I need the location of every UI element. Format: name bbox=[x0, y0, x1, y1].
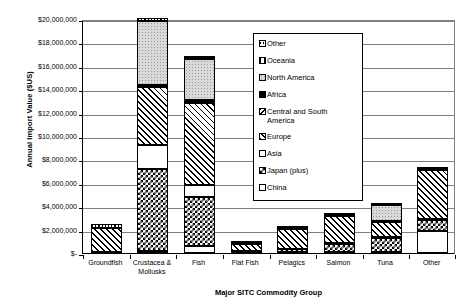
solid-black-swatch-icon bbox=[259, 91, 266, 98]
bar-segment-europe[interactable] bbox=[371, 222, 402, 237]
bar-segment-asia[interactable] bbox=[184, 185, 215, 197]
bar-segment-europe[interactable] bbox=[137, 87, 168, 146]
y-axis-tick-mark bbox=[79, 208, 83, 209]
bar-segment-japan-plus[interactable] bbox=[277, 249, 308, 252]
x-axis-category-label: Salmon bbox=[315, 258, 362, 267]
legend-item-label: Japan (plus) bbox=[267, 166, 308, 175]
bar-segment-europe[interactable] bbox=[417, 170, 448, 219]
y-axis-tick-label: $20,000,000 bbox=[5, 16, 77, 23]
legend-item[interactable]: Japan (plus) bbox=[259, 166, 362, 183]
legend-item[interactable]: China bbox=[259, 183, 362, 200]
legend-item[interactable]: Europe bbox=[259, 132, 362, 149]
bar-segment-japan-plus[interactable] bbox=[184, 197, 215, 246]
y-axis-tick-mark bbox=[79, 91, 83, 92]
bar-segment-japan-plus[interactable] bbox=[324, 244, 355, 252]
bar-segment-china[interactable] bbox=[184, 246, 215, 253]
bar-segment-asia[interactable] bbox=[137, 145, 168, 168]
y-axis-tick-label: $16,000,000 bbox=[5, 63, 77, 70]
legend-item-label: Europe bbox=[267, 132, 291, 141]
bar-segment-other[interactable] bbox=[324, 213, 355, 215]
bar-segment-other[interactable] bbox=[231, 241, 262, 243]
y-axis-tick-label: $- bbox=[5, 250, 77, 257]
y-axis-tick-mark bbox=[79, 115, 83, 116]
legend-item[interactable]: Central and South America bbox=[259, 107, 362, 132]
bar-segment-other[interactable] bbox=[91, 224, 122, 228]
x-axis-category-label: Tuna bbox=[362, 258, 409, 267]
x-axis-tick-mark bbox=[455, 255, 456, 259]
x-axis-category-label: Groundfish bbox=[82, 258, 129, 267]
bar-segment-africa[interactable] bbox=[184, 100, 215, 102]
bar-segment-japan-plus[interactable] bbox=[417, 220, 448, 231]
y-axis-tick-mark bbox=[79, 44, 83, 45]
y-axis-tick-mark bbox=[79, 161, 83, 162]
bar-segment-japan-plus[interactable] bbox=[371, 238, 402, 252]
y-axis-tick-label: $4,000,000 bbox=[5, 203, 77, 210]
legend-item-label: North America bbox=[267, 73, 315, 82]
white-swatch-icon bbox=[259, 184, 266, 191]
chart-legend: OtherOceaniaNorth AmericaAfricaCentral a… bbox=[253, 33, 363, 201]
diagonal-hatch-swatch-icon bbox=[259, 133, 266, 140]
y-axis-tick-mark bbox=[79, 68, 83, 69]
legend-item[interactable]: Oceania bbox=[259, 56, 362, 73]
y-axis-tick-label: $14,000,000 bbox=[5, 86, 77, 93]
x-axis-category-label: Pelagics bbox=[269, 258, 316, 267]
bar-segment-other[interactable] bbox=[184, 56, 215, 58]
x-axis-category-label: Crustacea &Mollusks bbox=[129, 258, 176, 276]
bar-segment-north-america[interactable] bbox=[184, 59, 215, 100]
checkerboard-swatch-icon bbox=[259, 167, 266, 174]
bar-segment-europe[interactable] bbox=[324, 216, 355, 243]
y-axis-tick-label: $18,000,000 bbox=[5, 39, 77, 46]
y-axis-tick-label: $10,000,000 bbox=[5, 133, 77, 140]
stacked-bar-chart: Annual Import Value ($US) Major SITC Com… bbox=[0, 0, 469, 308]
legend-item[interactable]: North America bbox=[259, 73, 362, 90]
vertical-bar-swatch-icon bbox=[259, 57, 266, 64]
legend-item-label: Other bbox=[267, 39, 286, 48]
bar-segment-china[interactable] bbox=[137, 251, 168, 253]
bar-segment-europe[interactable] bbox=[231, 244, 262, 252]
bar-segment-other[interactable] bbox=[371, 203, 402, 205]
bar-segment-europe[interactable] bbox=[91, 228, 122, 251]
y-axis-tick-mark bbox=[79, 185, 83, 186]
legend-item-label: Africa bbox=[267, 90, 286, 99]
y-axis-tick-label: $6,000,000 bbox=[5, 180, 77, 187]
fine-diagonal-swatch-icon bbox=[259, 108, 266, 115]
y-axis-tick-label: $12,000,000 bbox=[5, 110, 77, 117]
light-dotted-swatch-icon bbox=[259, 74, 266, 81]
legend-item[interactable]: Africa bbox=[259, 90, 362, 107]
y-axis-tick-mark bbox=[79, 138, 83, 139]
legend-item-label: Oceania bbox=[267, 56, 295, 65]
bar-segment-other[interactable] bbox=[417, 167, 448, 169]
horizontal-dash-swatch-icon bbox=[259, 40, 266, 47]
bar-segment-europe[interactable] bbox=[277, 229, 308, 249]
bar-segment-other[interactable] bbox=[137, 18, 168, 21]
bar-segment-other[interactable] bbox=[277, 226, 308, 228]
x-axis-category-label: Flat Fish bbox=[222, 258, 269, 267]
y-axis-tick-label: $8,000,000 bbox=[5, 156, 77, 163]
bar-segment-europe[interactable] bbox=[184, 103, 215, 185]
legend-item-label: Central and South America bbox=[267, 107, 327, 125]
legend-item-label: China bbox=[267, 183, 287, 192]
bar-segment-china[interactable] bbox=[417, 231, 448, 253]
x-axis-category-label: Other bbox=[408, 258, 455, 267]
x-axis-category-label: Fish bbox=[175, 258, 222, 267]
white-swatch-icon bbox=[259, 150, 266, 157]
y-axis-tick-label: $2,000,000 bbox=[5, 227, 77, 234]
legend-item[interactable]: Other bbox=[259, 39, 362, 56]
x-axis-title: Major SITC Commodity Group bbox=[82, 288, 455, 297]
bar-segment-north-america[interactable] bbox=[371, 205, 402, 221]
legend-item-label: Asia bbox=[267, 149, 282, 158]
y-axis-tick-mark bbox=[79, 232, 83, 233]
bar-segment-north-america[interactable] bbox=[137, 21, 168, 84]
bar-segment-japan-plus[interactable] bbox=[137, 169, 168, 251]
y-axis-tick-mark bbox=[79, 21, 83, 22]
legend-item[interactable]: Asia bbox=[259, 149, 362, 166]
